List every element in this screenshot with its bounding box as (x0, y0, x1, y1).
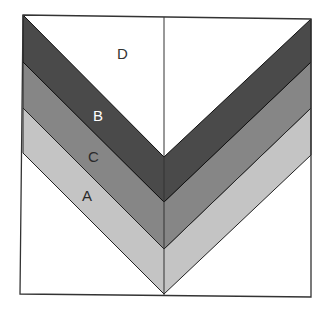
chevron-diagram: D B C A (0, 0, 320, 311)
label-d: D (117, 45, 128, 62)
label-b: B (93, 107, 103, 124)
label-a: A (82, 187, 92, 204)
label-c: C (88, 148, 99, 165)
